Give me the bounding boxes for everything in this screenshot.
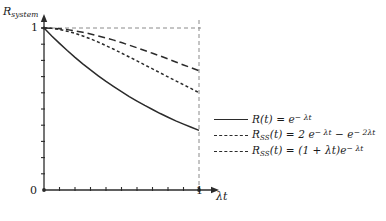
legend-item: R(t) = e− λt <box>214 111 384 127</box>
reliability-chart-figure: Rsystem λt 1 0 1 R(t) = e− λt RSS(t) = 2… <box>0 0 386 221</box>
legend-item-label: RSS(t) = (1 + λt)e− λt <box>252 144 363 158</box>
legend-item: RSS(t) = 2 e− λt − e− 2λt <box>214 127 384 143</box>
legend-item-label: RSS(t) = 2 e− λt − e− 2λt <box>252 128 375 142</box>
legend-item-label: R(t) = e− λt <box>252 113 312 125</box>
legend: R(t) = e− λt RSS(t) = 2 e− λt − e− 2λt R… <box>214 111 384 159</box>
legend-item: RSS(t) = (1 + λt)e− λt <box>214 143 384 159</box>
y-axis-tick-label-1: 1 <box>31 21 38 34</box>
y-axis-label: Rsystem <box>3 5 38 19</box>
legend-line-sample-solid-icon <box>214 114 248 124</box>
legend-line-sample-short-dash-icon <box>214 130 248 140</box>
origin-tick-label: 0 <box>30 184 37 197</box>
legend-line-sample-long-dash-icon <box>214 146 248 156</box>
x-axis-tick-label-1: 1 <box>196 184 203 197</box>
x-axis-label: λt <box>216 190 227 203</box>
